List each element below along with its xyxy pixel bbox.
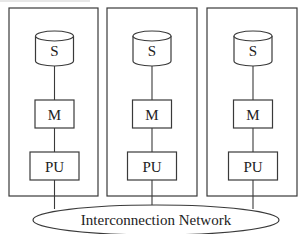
- node-2: S M PU: [107, 8, 197, 205]
- node-2-memory-label: M: [145, 107, 158, 123]
- node-3: S M PU: [207, 8, 297, 209]
- node-1-storage-label: S: [50, 43, 58, 59]
- shared-nothing-diagram: S M PU S M PU S M: [0, 0, 307, 234]
- node-3-processor-label: PU: [243, 159, 262, 175]
- interconnection-network-label: Interconnection Network: [81, 212, 232, 228]
- node-2-storage-label: S: [148, 43, 156, 59]
- node-1-memory-label: M: [48, 107, 61, 123]
- node-1-processor-label: PU: [45, 159, 64, 175]
- node-2-processor-label: PU: [142, 159, 161, 175]
- node-3-memory-label: M: [246, 107, 259, 123]
- node-3-storage-label: S: [249, 43, 257, 59]
- node-1: S M PU: [9, 8, 98, 209]
